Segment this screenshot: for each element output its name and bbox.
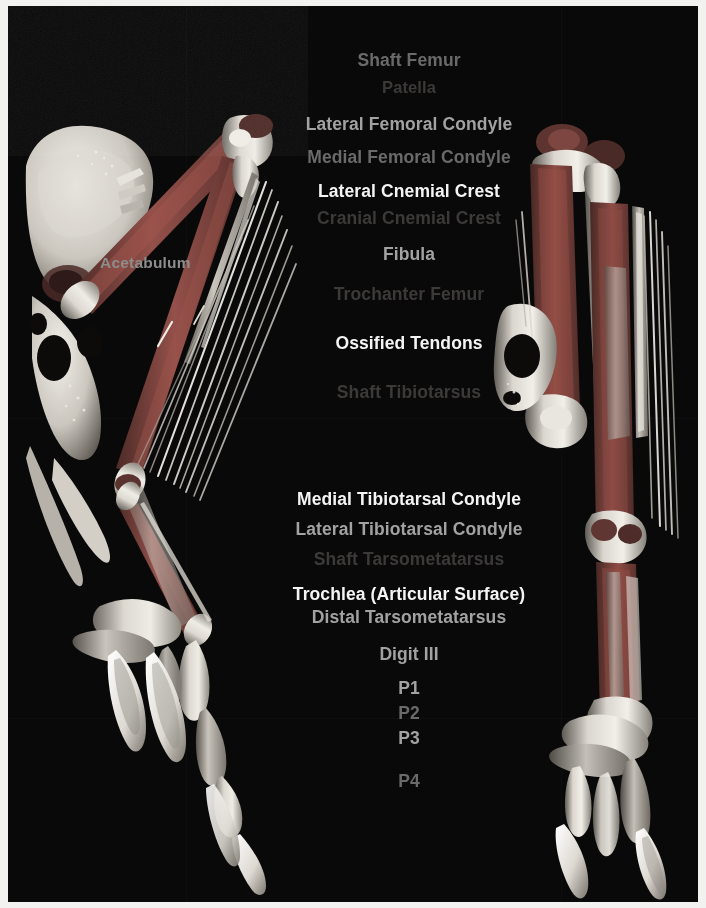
annotation-trochanter-femur: Trochanter Femur <box>194 284 624 305</box>
annotation-digit-iii: Digit III <box>194 644 624 665</box>
annotation-shaft-tarsometatarsus: Shaft Tarsometatarsus <box>194 549 624 570</box>
right-specimen <box>468 6 698 902</box>
annotation-ossified-tendons: Ossified Tendons <box>194 333 624 354</box>
figure-root: Acetabulum Shaft FemurPatellaLateral Fem… <box>0 0 706 908</box>
annotation-phalanx-4: P4 <box>194 771 624 792</box>
annotation-phalanx-2: P2 <box>194 703 624 724</box>
annotation-lateral-femoral-condyle: Lateral Femoral Condyle <box>194 114 624 135</box>
annotation-shaft-femur: Shaft Femur <box>194 50 624 71</box>
femur-shaft-right <box>525 164 587 448</box>
annotation-phalanx-1: P1 <box>194 678 624 699</box>
fibula-right <box>632 206 648 438</box>
acetabulum-label: Acetabulum <box>100 254 191 272</box>
annotation-trochlea-articular-surface: Trochlea (Articular Surface) <box>194 584 624 605</box>
annotation-lateral-cnemial-crest: Lateral Cnemial Crest <box>194 181 624 202</box>
annotation-patella: Patella <box>194 78 624 97</box>
annotation-phalanx-3: P3 <box>194 728 624 749</box>
annotation-medial-tibiotarsal-condyle: Medial Tibiotarsal Condyle <box>194 489 624 510</box>
annotation-lateral-tibiotarsal-condyle: Lateral Tibiotarsal Condyle <box>194 519 624 540</box>
left-specimen <box>8 6 308 902</box>
annotation-medial-femoral-condyle: Medial Femoral Condyle <box>194 147 624 168</box>
annotation-fibula: Fibula <box>194 244 624 265</box>
annotation-shaft-tibiotarsus: Shaft Tibiotarsus <box>194 382 624 403</box>
annotation-cranial-cnemial-crest: Cranial Cnemial Crest <box>194 208 624 229</box>
scan-plate: Acetabulum Shaft FemurPatellaLateral Fem… <box>8 6 698 902</box>
annotation-distal-tarsometatarsus: Distal Tarsometatarsus <box>194 607 624 628</box>
